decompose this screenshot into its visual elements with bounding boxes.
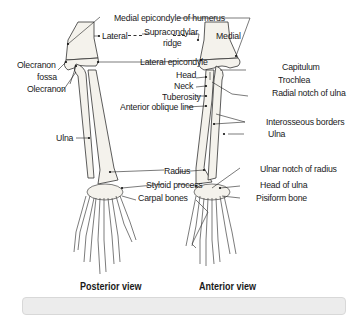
label-olecranon-fossa-line1: Olecranon: [17, 60, 56, 70]
label-lateral-epicondyle: Lateral epicondyle: [140, 57, 208, 67]
label-radial-notch-of-ulna: Radial notch of ulna: [272, 88, 346, 98]
label-pisiform-bone: Pisiform bone: [256, 193, 307, 203]
label-trochlea: Trochlea: [278, 75, 310, 85]
label-olecranon-fossa-line2: fossa: [37, 72, 57, 82]
label-anterior-oblique-line: Anterior oblique line: [120, 102, 193, 112]
dashed-line-medial: [173, 35, 185, 36]
label-ulna-posterior: Ulna: [56, 133, 73, 143]
label-lateral: Lateral: [102, 31, 127, 41]
label-supracondylar: Supracondylar: [144, 27, 198, 37]
dashed-line-lateral: [128, 35, 142, 36]
label-carpal-bones: Carpal bones: [138, 193, 188, 203]
caption-posterior-view: Posterior view: [80, 281, 142, 292]
label-head: Head: [176, 70, 196, 80]
label-head-of-ulna: Head of ulna: [260, 180, 307, 190]
label-styloid-process: Styloid process: [146, 180, 203, 190]
label-ridge: ridge: [163, 38, 182, 48]
anterior-humerus: [200, 22, 238, 60]
anterior-hand: [186, 184, 236, 266]
label-neck: Neck: [174, 81, 193, 91]
label-ulna-anterior: Ulna: [268, 129, 285, 139]
posterior-humerus: [66, 22, 98, 60]
bottom-panel: [22, 297, 346, 315]
caption-anterior-view: Anterior view: [199, 281, 256, 292]
label-medial-epicondyle: Medial epicondyle of humerus: [114, 13, 225, 23]
label-capitulum: Capitulum: [282, 62, 320, 72]
label-interosseous-borders: Interosseous borders: [266, 117, 344, 127]
label-radius: Radius: [164, 166, 190, 176]
label-olecranon: Olecranon: [27, 84, 66, 94]
label-ulnar-notch-of-radius: Ulnar notch of radius: [260, 164, 337, 174]
label-medial: Medial: [216, 31, 241, 41]
